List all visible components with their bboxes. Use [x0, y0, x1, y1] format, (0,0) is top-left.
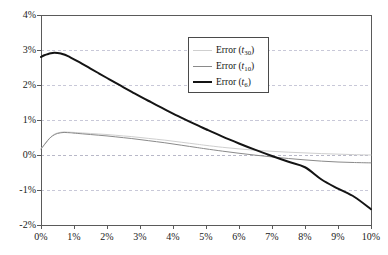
y-tick-label: 3% — [2, 45, 36, 55]
legend-label: Error (t30) — [216, 45, 254, 56]
y-tick-label: 1% — [2, 115, 36, 125]
legend-item: Error (t6) — [189, 74, 268, 90]
legend-label: Error (t10) — [216, 61, 254, 72]
series-line-1 — [41, 132, 371, 162]
legend-label: Error (t6) — [216, 77, 251, 88]
y-tick-label: -2% — [2, 220, 36, 230]
legend-swatch-line-icon — [193, 61, 212, 71]
y-tick-label: 2% — [2, 80, 36, 90]
chart-legend: Error (t30)Error (t10)Error (t6) — [188, 37, 269, 93]
legend-item: Error (t10) — [189, 58, 268, 74]
legend-swatch-line-icon — [193, 77, 212, 87]
series-line-0 — [41, 132, 371, 155]
y-tick-label: 4% — [2, 10, 36, 20]
x-tick-label: 10% — [351, 232, 388, 242]
legend-item: Error (t30) — [189, 42, 268, 58]
y-tick-label: 0% — [2, 150, 36, 160]
legend-swatch-line-icon — [193, 45, 212, 55]
chart-container: 4%3%2%1%0%-1%-2% 0%1%2%3%4%5%6%7%8%9%10%… — [0, 0, 388, 255]
y-tick-label: -1% — [2, 185, 36, 195]
